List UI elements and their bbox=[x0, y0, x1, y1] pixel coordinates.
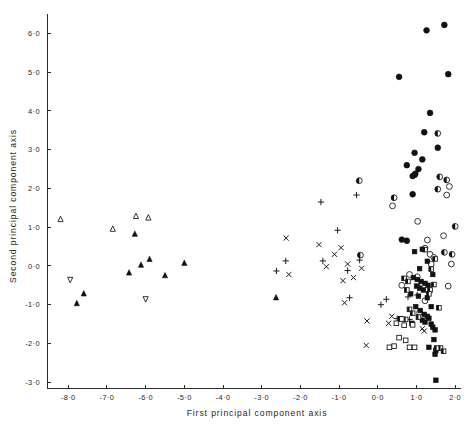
data-point bbox=[345, 261, 350, 266]
data-point bbox=[444, 192, 450, 198]
data-point bbox=[316, 242, 321, 247]
data-point bbox=[353, 192, 359, 198]
y-axis-title: Second principal component axis bbox=[8, 129, 18, 283]
data-point bbox=[404, 162, 410, 168]
data-point bbox=[433, 257, 438, 262]
data-point bbox=[445, 283, 451, 289]
data-point bbox=[81, 291, 86, 296]
data-point bbox=[427, 110, 433, 116]
data-point bbox=[346, 295, 352, 301]
data-point bbox=[338, 245, 343, 250]
data-point bbox=[445, 71, 451, 77]
data-point bbox=[392, 344, 397, 349]
data-point bbox=[386, 321, 391, 326]
data-point bbox=[68, 277, 73, 282]
data-point bbox=[394, 321, 399, 326]
data-point bbox=[410, 191, 416, 197]
data-point bbox=[432, 282, 437, 287]
data-point bbox=[423, 320, 428, 325]
data-point bbox=[430, 272, 435, 277]
x-tick-label: -6·0 bbox=[138, 393, 153, 402]
data-point bbox=[405, 288, 410, 293]
data-point bbox=[351, 275, 356, 280]
series-filled-circle bbox=[396, 22, 451, 244]
x-tick-label: 0·0 bbox=[372, 393, 384, 402]
data-point bbox=[342, 300, 347, 305]
data-point bbox=[415, 218, 421, 224]
data-point bbox=[58, 216, 63, 221]
data-point bbox=[364, 343, 369, 348]
data-point bbox=[320, 258, 326, 264]
data-point bbox=[397, 335, 402, 340]
data-point bbox=[434, 378, 439, 383]
data-point bbox=[425, 259, 430, 264]
data-point bbox=[412, 249, 417, 254]
data-point bbox=[417, 266, 422, 271]
data-point bbox=[387, 345, 392, 350]
data-point bbox=[441, 349, 446, 354]
data-point bbox=[433, 352, 438, 357]
data-point bbox=[412, 150, 418, 156]
series-filled-triangle-up bbox=[74, 231, 278, 306]
data-point bbox=[273, 268, 279, 274]
x-tick-label: -2·0 bbox=[293, 393, 308, 402]
y-tick-label: 4·0 bbox=[28, 107, 40, 116]
data-point bbox=[423, 247, 428, 252]
data-point bbox=[441, 233, 447, 239]
x-tick-label: 1·0 bbox=[411, 393, 423, 402]
data-point bbox=[449, 251, 455, 257]
data-point bbox=[416, 315, 421, 320]
data-point bbox=[448, 261, 454, 267]
y-tick-label: -3·0 bbox=[25, 378, 40, 387]
x-tick-label: -8·0 bbox=[61, 393, 76, 402]
y-tick-label: 5·0 bbox=[28, 68, 40, 77]
data-point bbox=[390, 203, 396, 209]
y-tick-label: 1·0 bbox=[28, 223, 40, 232]
data-point bbox=[356, 178, 362, 184]
data-point bbox=[399, 237, 405, 243]
data-point bbox=[147, 256, 152, 261]
data-point bbox=[399, 282, 405, 288]
data-point bbox=[391, 195, 397, 201]
x-tick-label: 2·0 bbox=[449, 393, 461, 402]
data-point bbox=[424, 237, 430, 243]
data-point bbox=[416, 294, 421, 299]
data-point bbox=[403, 338, 408, 343]
data-point bbox=[441, 22, 447, 28]
data-point bbox=[126, 270, 131, 275]
data-point bbox=[435, 186, 441, 192]
data-point bbox=[410, 323, 415, 328]
x-tick-label: -7·0 bbox=[100, 393, 115, 402]
data-point bbox=[419, 156, 425, 162]
data-point bbox=[364, 318, 369, 323]
series-open-triangle-up bbox=[58, 213, 151, 231]
data-point bbox=[421, 129, 427, 135]
data-point bbox=[182, 260, 187, 265]
axes-group bbox=[47, 14, 461, 388]
data-point bbox=[429, 304, 434, 309]
data-point bbox=[444, 177, 450, 183]
series-open-triangle-down bbox=[68, 277, 149, 302]
y-tick-label: 3·0 bbox=[28, 145, 40, 154]
data-point bbox=[406, 279, 411, 284]
x-tick-label: -5·0 bbox=[177, 393, 192, 402]
data-point bbox=[437, 305, 442, 310]
data-point bbox=[433, 328, 438, 333]
data-point bbox=[396, 74, 402, 80]
data-point bbox=[410, 173, 416, 179]
x-axis-title: First principal component axis bbox=[187, 408, 328, 418]
data-point bbox=[389, 314, 394, 319]
data-point bbox=[383, 296, 389, 302]
data-point bbox=[378, 302, 384, 308]
data-point bbox=[437, 174, 443, 180]
x-tick-label: -3·0 bbox=[254, 393, 269, 402]
data-point bbox=[283, 258, 289, 264]
data-point bbox=[74, 300, 79, 305]
data-point bbox=[332, 252, 337, 257]
data-point bbox=[424, 27, 430, 33]
data-point bbox=[359, 266, 364, 271]
data-point bbox=[441, 249, 447, 255]
data-point bbox=[146, 215, 151, 220]
data-point bbox=[407, 345, 412, 350]
data-point bbox=[286, 272, 291, 277]
